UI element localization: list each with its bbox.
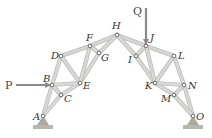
node-label-a: A xyxy=(32,111,40,122)
node-label-g: G xyxy=(101,52,109,63)
node-label-e: E xyxy=(82,80,91,91)
node-i xyxy=(134,54,138,58)
node-label-i: I xyxy=(127,54,133,65)
load-p-label: P xyxy=(5,79,13,92)
node-label-j: J xyxy=(148,32,155,43)
member-lk xyxy=(155,56,174,83)
node-h xyxy=(115,33,119,37)
member-kn xyxy=(155,83,184,85)
node-b xyxy=(50,83,54,87)
node-j xyxy=(144,44,148,48)
node-f xyxy=(88,44,92,48)
truss-nodes xyxy=(41,33,195,118)
node-label-b: B xyxy=(42,73,50,84)
node-label-n: N xyxy=(187,80,198,91)
node-label-k: K xyxy=(144,80,153,91)
supports xyxy=(33,116,203,129)
node-m xyxy=(172,93,176,97)
node-label-l: L xyxy=(177,50,185,61)
node-k xyxy=(153,81,157,85)
truss-diagram: PQ ABCDEFGHIJKLMNO xyxy=(0,0,212,138)
node-e xyxy=(78,81,82,85)
node-a xyxy=(41,114,45,118)
node-c xyxy=(59,93,63,97)
node-l xyxy=(172,54,176,58)
node-o xyxy=(191,114,195,118)
member-be xyxy=(52,83,80,85)
member-de xyxy=(61,56,80,83)
node-label-f: F xyxy=(85,32,94,43)
node-label-d: D xyxy=(50,50,59,61)
node-label-o: O xyxy=(196,111,204,122)
node-label-m: M xyxy=(160,93,172,104)
load-q-label: Q xyxy=(133,5,142,18)
node-label-c: C xyxy=(64,93,72,104)
node-n xyxy=(182,83,186,87)
node-label-h: H xyxy=(111,20,121,31)
node-d xyxy=(59,54,63,58)
load-q-arrow: Q xyxy=(133,5,146,44)
